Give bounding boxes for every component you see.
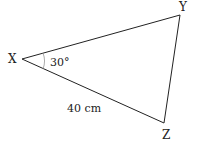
vertex-label-y: Y	[178, 0, 188, 14]
angle-label: 30°	[50, 56, 70, 69]
angle-arc-x	[43, 53, 45, 69]
vertex-label-x: X	[8, 52, 17, 66]
side-label-xz: 40 cm	[67, 102, 102, 115]
vertex-label-z: Z	[162, 128, 170, 142]
triangle-diagram: X Y Z 30° 40 cm	[0, 0, 201, 150]
